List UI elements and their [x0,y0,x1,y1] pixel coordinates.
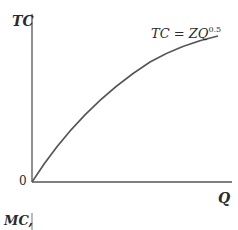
y-axis-label: TC [12,14,34,28]
origin-label: 0 [19,175,27,187]
tc-curve [32,36,218,182]
tc-chart: TC TC = ZQ0.5 0 Q MC, [0,0,238,230]
curve-equation-label: TC = ZQ0.5 [151,26,221,40]
mc-panel-y-label: MC, [4,214,33,227]
equation-exponent: 0.5 [208,25,221,34]
x-axis-label: Q [218,191,230,205]
equation-main: TC = ZQ [151,26,208,41]
